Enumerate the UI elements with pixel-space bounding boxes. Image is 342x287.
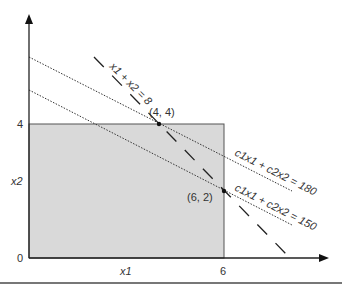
point-6-2 [222,189,226,193]
y-axis-label: x2 [10,175,23,187]
point-label-6-2: (6, 2) [187,191,213,203]
point-label-4-4: (4, 4) [149,106,175,118]
y-axis-arrow-icon [25,14,33,24]
lp-diagram: 0 4 6 x2 x1 (4, 4) (6, 2) x1 + x2 = 8 c1… [0,0,342,287]
x-axis-label: x1 [119,265,132,277]
x-tick-label: 6 [220,265,226,277]
x-axis-arrow-icon [319,254,329,262]
constraint-label: x1 + x2 = 8 [107,59,155,107]
y-tick-label: 4 [17,118,23,130]
origin-label: 0 [17,252,23,264]
point-4-4 [157,122,161,126]
